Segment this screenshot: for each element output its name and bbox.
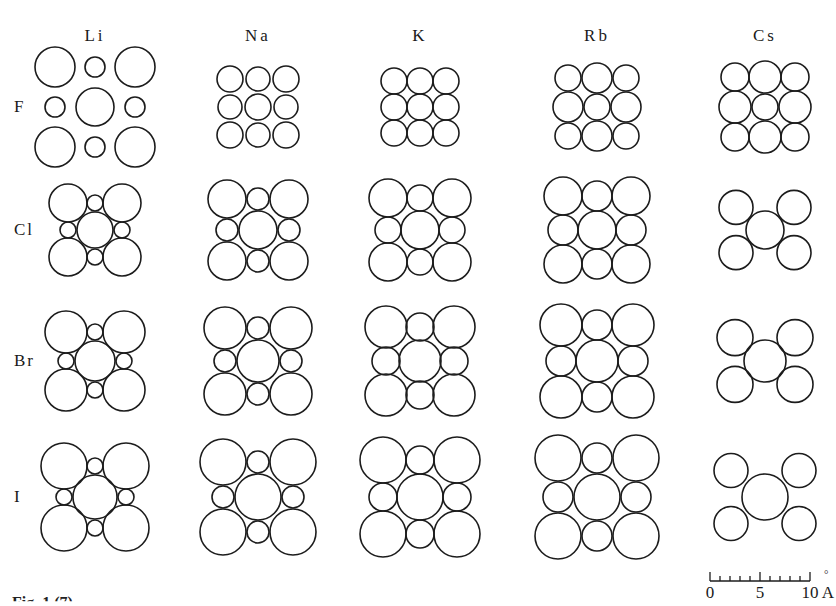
cell-kbr [365, 306, 475, 416]
edge-ion [214, 350, 236, 372]
corner-ion [434, 511, 480, 557]
corner-ion [555, 65, 581, 91]
corner-ion [208, 180, 246, 218]
corner-ion [555, 123, 581, 149]
edge-ion [114, 222, 130, 238]
edge-ion [582, 382, 612, 412]
corner-ion [41, 443, 87, 489]
corner-ion [433, 179, 471, 217]
corner-ion [204, 373, 246, 415]
corner-ion [714, 507, 748, 541]
edge-ion [582, 521, 612, 551]
center-ion [239, 211, 277, 249]
cell-rbcl [544, 177, 650, 283]
corner-ion [369, 243, 407, 281]
angstrom-ring-icon: ° [824, 568, 828, 580]
center-ion [578, 211, 616, 249]
corner-ion [544, 177, 582, 215]
edge-ion [87, 249, 103, 265]
edge-ion [247, 451, 269, 473]
scale-label-0: 0 [706, 583, 715, 603]
center-ion [235, 474, 281, 520]
cell-kcl [369, 179, 471, 281]
edge-ion [582, 443, 612, 473]
edge-ion [546, 346, 576, 376]
edge-ion [548, 215, 578, 245]
center-ion [75, 341, 115, 381]
cell-lii [41, 443, 149, 551]
corner-ion [433, 120, 459, 146]
center-ion [744, 340, 786, 382]
edge-ion [407, 249, 433, 275]
corner-ion [540, 376, 582, 418]
corner-ion [434, 437, 480, 483]
corner-ion [360, 437, 406, 483]
corner-ion [782, 453, 816, 487]
corner-ion [41, 505, 87, 551]
corner-ion [777, 190, 811, 224]
corner-ion [613, 513, 659, 559]
edge-ion [406, 313, 434, 341]
edge-ion [582, 310, 612, 340]
center-ion [399, 340, 441, 382]
corner-ion [217, 122, 243, 148]
corner-ion [270, 307, 312, 349]
edge-ion [749, 61, 781, 93]
center-ion [752, 94, 778, 120]
scale-label-5: 5 [756, 583, 765, 603]
cell-ki [360, 437, 480, 557]
corner-ion [781, 123, 809, 151]
edge-ion [45, 97, 65, 117]
corner-ion [544, 245, 582, 283]
edge-ion [56, 489, 72, 505]
corner-ion [49, 238, 87, 276]
corner-ion [540, 304, 582, 346]
center-ion [576, 340, 618, 382]
corner-ion [103, 238, 141, 276]
cell-nabr [204, 307, 312, 415]
cell-cscl [719, 190, 811, 269]
edge-ion [212, 486, 234, 508]
corner-ion [204, 307, 246, 349]
corner-ion [612, 245, 650, 283]
edge-ion [246, 67, 270, 91]
corner-ion [719, 190, 753, 224]
corner-ion [270, 439, 316, 485]
edge-ion [618, 346, 648, 376]
corner-ion [270, 242, 308, 280]
edge-ion [749, 121, 781, 153]
corner-ion [381, 68, 407, 94]
edge-ion [369, 483, 397, 511]
corner-ion [103, 505, 149, 551]
edge-ion [406, 446, 434, 474]
corner-ion [613, 65, 639, 91]
corner-ion [781, 63, 809, 91]
corner-ion [613, 435, 659, 481]
edge-ion [247, 250, 269, 272]
edge-ion [274, 95, 298, 119]
edge-ion [118, 489, 134, 505]
corner-ion [365, 306, 407, 348]
cell-naf [217, 66, 299, 148]
edge-ion [406, 520, 434, 548]
scale-label-10: 10 [802, 583, 819, 603]
edge-ion [407, 185, 433, 211]
edge-ion [381, 94, 407, 120]
edge-ion [440, 347, 468, 375]
edge-ion [60, 222, 76, 238]
scale-ruler-icon [706, 568, 836, 584]
edge-ion [87, 520, 103, 536]
edge-ion [216, 219, 238, 241]
corner-ion [273, 122, 299, 148]
cell-csbr [717, 320, 813, 403]
corner-ion [369, 179, 407, 217]
center-ion [77, 212, 113, 248]
edge-ion [87, 195, 103, 211]
corner-ion [360, 511, 406, 557]
edge-ion [247, 521, 269, 543]
edge-ion [247, 317, 269, 339]
cell-csf [719, 61, 811, 153]
edge-ion [439, 217, 465, 243]
cell-rbi [535, 435, 659, 559]
corner-ion [49, 184, 87, 222]
